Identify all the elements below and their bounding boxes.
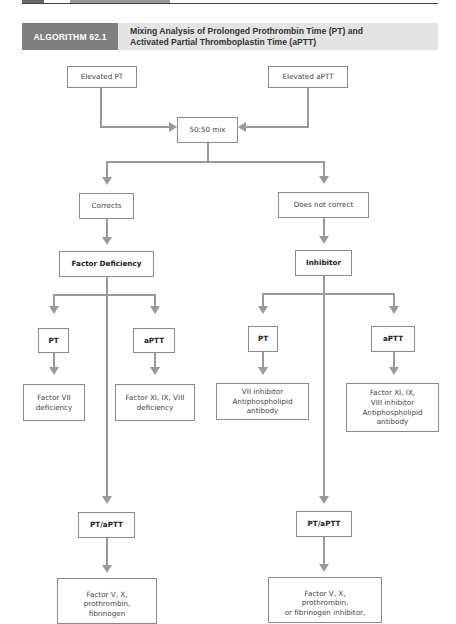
arrow-down-icon xyxy=(319,236,329,244)
connector xyxy=(106,277,108,497)
node-inh-pt-aptt-result: Factor V, X, prothrombin, or fibrinogen … xyxy=(268,577,382,623)
arrow-down-icon xyxy=(319,496,329,504)
result-line: VII inhibitor xyxy=(242,387,283,397)
arrow-down-icon xyxy=(319,564,329,572)
node-fd-pt: PT xyxy=(38,328,69,353)
algorithm-title: Mixing Analysis of Prolonged Prothrombin… xyxy=(130,26,430,47)
arrow-down-icon xyxy=(102,237,112,245)
arrow-down-icon xyxy=(150,367,160,375)
connector xyxy=(323,161,325,176)
connector xyxy=(262,293,395,295)
connector xyxy=(323,537,325,564)
connector xyxy=(323,276,325,497)
connector xyxy=(323,218,325,237)
connector xyxy=(106,219,108,238)
connector xyxy=(246,126,309,128)
arrow-down-icon xyxy=(49,367,59,375)
result-line: Factor V, X, xyxy=(61,590,153,600)
result-line: prothrombin, xyxy=(61,599,153,609)
running-header-cropped xyxy=(70,0,170,3)
result-line: Antiphospholipid antibody xyxy=(220,397,305,416)
result-line: Factor XI, IX, xyxy=(370,388,415,398)
arrow-right-icon xyxy=(169,122,177,132)
connector xyxy=(106,161,108,177)
node-factor-deficiency: Factor Deficiency xyxy=(59,251,154,277)
node-inhibitor: Inhibitor xyxy=(295,250,352,276)
node-inh-aptt-result: Factor XI, IX, VIII inhibitor Antiphosph… xyxy=(346,383,439,432)
page-top-rule xyxy=(22,3,438,4)
result-line: VIII inhibitor xyxy=(371,398,414,408)
connector xyxy=(106,161,325,163)
connector xyxy=(154,353,156,368)
connector xyxy=(53,353,55,368)
title-line-2: Activated Partial Thromboplastin Time (a… xyxy=(130,37,430,48)
arrow-down-icon xyxy=(258,367,268,375)
result-line: fibrinogen xyxy=(61,609,153,619)
page-number-cropped xyxy=(22,0,44,3)
algorithm-banner: ALGORITHM 62.1 Mixing Analysis of Prolon… xyxy=(22,23,438,50)
arrow-down-icon xyxy=(389,306,399,314)
node-fd-aptt: aPTT xyxy=(133,328,175,353)
node-elevated-pt: Elevated PT xyxy=(67,66,137,88)
connector xyxy=(154,294,156,306)
connector xyxy=(262,293,264,306)
connector xyxy=(207,143,209,162)
connector xyxy=(106,538,108,565)
algorithm-tag: ALGORITHM 62.1 xyxy=(22,23,118,50)
node-corrects: Corrects xyxy=(79,193,134,219)
connector xyxy=(307,88,309,128)
node-inh-pt-result: VII inhibitor Antiphospholipid antibody xyxy=(216,383,309,420)
arrow-down-icon xyxy=(150,306,160,314)
arrow-down-icon xyxy=(319,176,329,184)
arrow-down-icon xyxy=(258,306,268,314)
arrow-down-icon xyxy=(389,367,399,375)
arrow-down-icon xyxy=(49,306,59,314)
result-line: prothrombin, xyxy=(272,598,378,608)
title-line-1: Mixing Analysis of Prolonged Prothrombin… xyxy=(130,26,430,37)
connector xyxy=(53,294,156,296)
arrow-left-icon xyxy=(238,122,246,132)
connector xyxy=(100,126,170,128)
connector xyxy=(393,352,395,368)
result-line: Antiphospholipid antibody xyxy=(350,408,435,427)
node-does-not-correct: Does not correct xyxy=(278,192,369,218)
connector xyxy=(262,352,264,368)
node-fd-pt-aptt: PT/aPTT xyxy=(78,512,135,538)
result-line: Factor V, X, xyxy=(272,589,378,599)
node-mix: 50:50 mix xyxy=(177,117,238,143)
node-fd-aptt-result: Factor XI, IX, VIII deficiency xyxy=(115,384,195,421)
arrow-down-icon xyxy=(102,565,112,573)
node-fd-pt-aptt-result: Factor V, X, prothrombin, fibrinogen xyxy=(57,578,157,624)
arrow-down-icon xyxy=(102,496,112,504)
arrow-down-icon xyxy=(102,177,112,185)
connector xyxy=(53,294,55,306)
connector xyxy=(100,88,102,128)
result-line: or fibrinogen inhibitor, xyxy=(272,608,378,618)
node-inh-pt: PT xyxy=(248,326,278,352)
connector xyxy=(393,293,395,306)
node-fd-pt-result: Factor VII deficiency xyxy=(23,384,85,421)
node-inh-aptt: aPTT xyxy=(371,326,415,352)
node-elevated-aptt: Elevated aPTT xyxy=(268,66,348,88)
node-inh-pt-aptt: PT/aPTT xyxy=(296,511,352,537)
